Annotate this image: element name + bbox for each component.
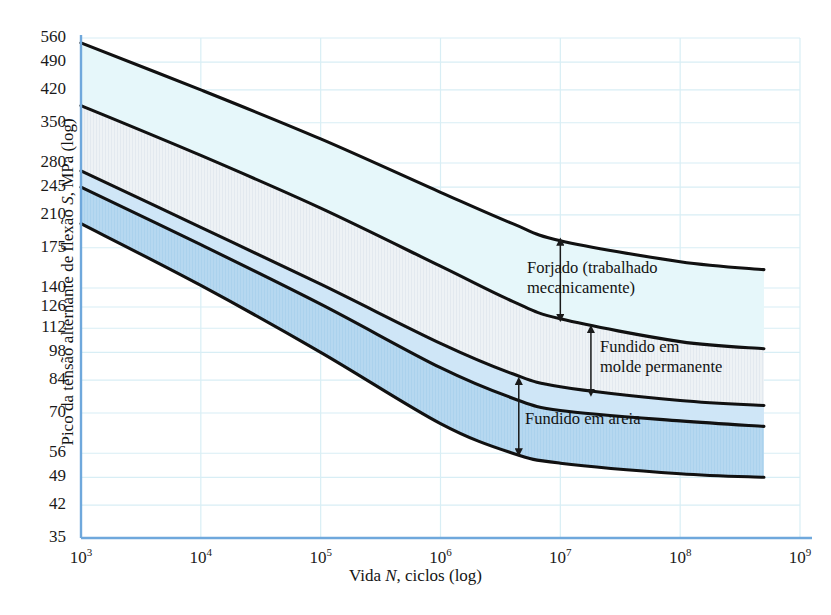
x-tick-label: 108 <box>645 546 715 568</box>
y-tick-label: 49 <box>8 466 66 486</box>
y-tick-label: 112 <box>8 317 66 337</box>
annotation-sand-cast: Fundido em areia <box>525 409 640 429</box>
y-tick-label: 35 <box>8 527 66 547</box>
y-tick-label: 350 <box>8 112 66 132</box>
y-tick-label: 420 <box>8 79 66 99</box>
annotation-permanent-mold: Fundido em molde permanente <box>600 337 722 377</box>
y-tick-label: 56 <box>8 442 66 462</box>
y-tick-label: 210 <box>8 204 66 224</box>
y-tick-label: 560 <box>8 27 66 47</box>
x-tick-label: 109 <box>765 546 831 568</box>
annotation-wrought: Forjado (trabalhado mecanicamente) <box>527 258 658 298</box>
x-tick-label: 103 <box>46 546 116 568</box>
x-axis-title: Vida N, ciclos (log) <box>0 566 831 586</box>
y-tick-label: 140 <box>8 277 66 297</box>
x-tick-label: 107 <box>525 546 595 568</box>
chart-figure: Pico da tensão alternante de flexão S, M… <box>0 0 831 615</box>
x-tick-label: 105 <box>286 546 356 568</box>
x-tick-label: 106 <box>406 546 476 568</box>
y-tick-label: 84 <box>8 369 66 389</box>
y-tick-label: 280 <box>8 152 66 172</box>
y-tick-label: 175 <box>8 237 66 257</box>
y-tick-label: 42 <box>8 494 66 514</box>
y-tick-label: 126 <box>8 296 66 316</box>
y-tick-label: 245 <box>8 176 66 196</box>
y-tick-label: 98 <box>8 341 66 361</box>
chart-canvas <box>0 0 831 615</box>
y-tick-label: 70 <box>8 402 66 422</box>
x-tick-label: 104 <box>166 546 236 568</box>
y-tick-label: 490 <box>8 51 66 71</box>
